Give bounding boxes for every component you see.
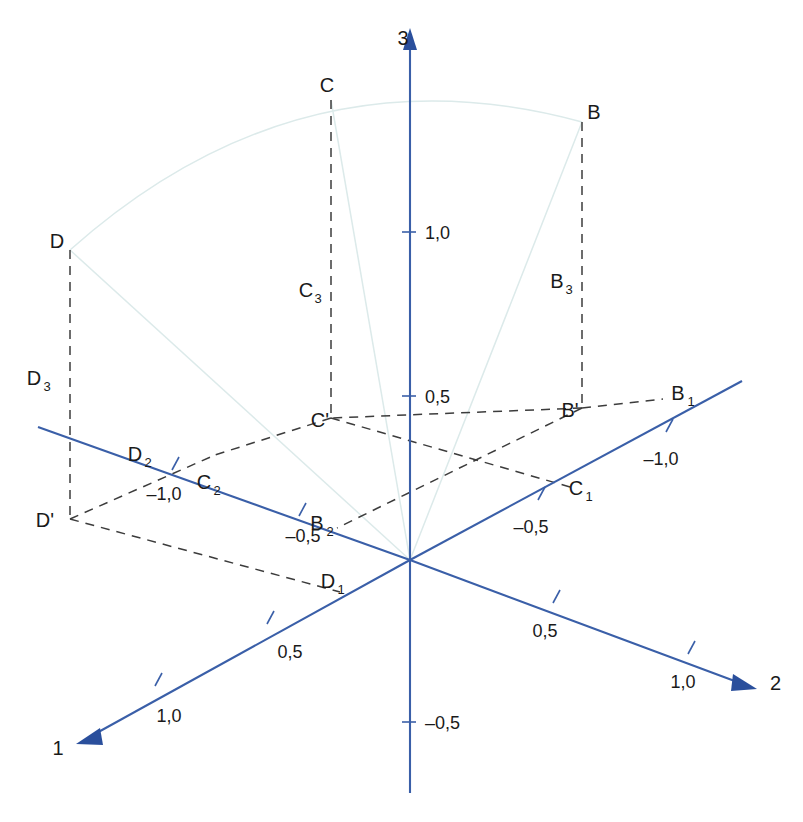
point-label-C: C bbox=[320, 74, 334, 96]
pale-line-origin-C bbox=[331, 100, 410, 560]
axis-3-name: 3 bbox=[397, 27, 408, 49]
point-label-B2-sub: 2 bbox=[326, 524, 333, 539]
point-label-D3: D 3 bbox=[27, 367, 51, 394]
point-label-C1-base: C bbox=[569, 477, 583, 499]
point-labels: C B D C' B' D' C 3 B 3 D 3 D 2 C 2 B bbox=[27, 74, 695, 597]
point-label-C2-sub: 2 bbox=[213, 483, 220, 498]
tick-label-axis3-1.0: 1,0 bbox=[425, 223, 450, 243]
point-label-B1-sub: 1 bbox=[687, 394, 694, 409]
point-label-D2-sub: 2 bbox=[144, 455, 151, 470]
axis-2-name: 2 bbox=[770, 672, 781, 694]
point-label-B2-base: B bbox=[310, 512, 323, 534]
dashed-construction bbox=[70, 100, 663, 592]
tick-marks bbox=[155, 232, 695, 722]
point-label-B3: B 3 bbox=[550, 270, 572, 297]
dash-Cprime-to-C1 bbox=[331, 418, 570, 487]
tick-label-axis2-1.0: 1,0 bbox=[670, 672, 695, 692]
point-label-B1: B 1 bbox=[671, 382, 694, 409]
axis-1-name: 1 bbox=[52, 737, 63, 759]
pale-arc-DCB bbox=[70, 101, 582, 250]
point-label-D2-base: D bbox=[128, 443, 142, 465]
axis-1-line-positive[interactable] bbox=[93, 560, 410, 735]
point-label-D1: D 1 bbox=[321, 570, 345, 597]
point-label-C3: C 3 bbox=[299, 279, 322, 306]
dash-Bprime-to-B1 bbox=[582, 399, 663, 408]
tick-label-axis2-neg1.0: –1,0 bbox=[643, 449, 678, 469]
tick-label-axis1-0.5: 0,5 bbox=[277, 642, 302, 662]
tick-axis2-0.5 bbox=[553, 590, 560, 603]
point-label-C-prime: C' bbox=[311, 409, 329, 431]
point-label-C1-sub: 1 bbox=[585, 489, 592, 504]
tick-axis2-1.0 bbox=[688, 641, 695, 654]
axis-2-arrowhead bbox=[731, 674, 757, 691]
pale-line-origin-B bbox=[410, 122, 582, 560]
tick-label-axis1-neg1.0: –1,0 bbox=[146, 484, 181, 504]
point-label-D2: D 2 bbox=[128, 443, 152, 470]
coordinate-diagram: 3 2 1 1,0 0,5 –0,5 0,5 1,0 –0,5 –1,0 0,5… bbox=[0, 0, 803, 822]
point-label-C2-base: C bbox=[197, 471, 211, 493]
point-label-B3-sub: 3 bbox=[565, 282, 572, 297]
tick-label-axis3-0.5: 0,5 bbox=[425, 387, 450, 407]
tick-axis1-0.5 bbox=[267, 611, 274, 624]
point-label-C1: C 1 bbox=[569, 477, 593, 504]
point-label-C2: C 2 bbox=[197, 471, 221, 498]
figure-canvas: 3 2 1 1,0 0,5 –0,5 0,5 1,0 –0,5 –1,0 0,5… bbox=[0, 0, 803, 822]
point-label-D1-sub: 1 bbox=[337, 582, 344, 597]
axis-1-line-negative[interactable] bbox=[38, 427, 410, 560]
pale-line-origin-D bbox=[70, 250, 410, 560]
dash-Bprime-to-B2 bbox=[337, 408, 582, 528]
point-label-B-prime: B' bbox=[561, 399, 578, 421]
axis-1-arrowhead bbox=[76, 728, 103, 745]
point-label-B: B bbox=[587, 101, 600, 123]
tick-label-axis2-0.5: 0,5 bbox=[532, 621, 557, 641]
point-label-D: D bbox=[50, 230, 64, 252]
tick-label-axis2-neg0.5: –0,5 bbox=[513, 517, 548, 537]
point-label-B1-base: B bbox=[671, 382, 684, 404]
tick-labels: 1,0 0,5 –0,5 0,5 1,0 –0,5 –1,0 0,5 1,0 –… bbox=[146, 223, 695, 733]
point-label-D-prime: D' bbox=[36, 509, 54, 531]
dash-Bprime-to-Cprime bbox=[331, 408, 582, 418]
point-label-C3-base: C bbox=[299, 279, 313, 301]
tick-axis1-neg0.5 bbox=[299, 503, 306, 516]
point-label-B3-base: B bbox=[550, 270, 563, 292]
point-label-C3-sub: 3 bbox=[314, 291, 321, 306]
point-label-D1-base: D bbox=[321, 570, 335, 592]
tick-axis1-1.0 bbox=[155, 673, 162, 686]
axis-lines bbox=[38, 28, 757, 793]
axis-2-line-positive[interactable] bbox=[410, 560, 740, 683]
tick-axis1-neg1.0 bbox=[172, 457, 179, 470]
tick-label-axis3-neg0.5: –0,5 bbox=[425, 713, 460, 733]
point-label-D3-base: D bbox=[27, 367, 41, 389]
tick-label-axis1-1.0: 1,0 bbox=[156, 706, 181, 726]
pale-arc-group bbox=[70, 101, 582, 250]
point-label-D3-sub: 3 bbox=[43, 379, 50, 394]
